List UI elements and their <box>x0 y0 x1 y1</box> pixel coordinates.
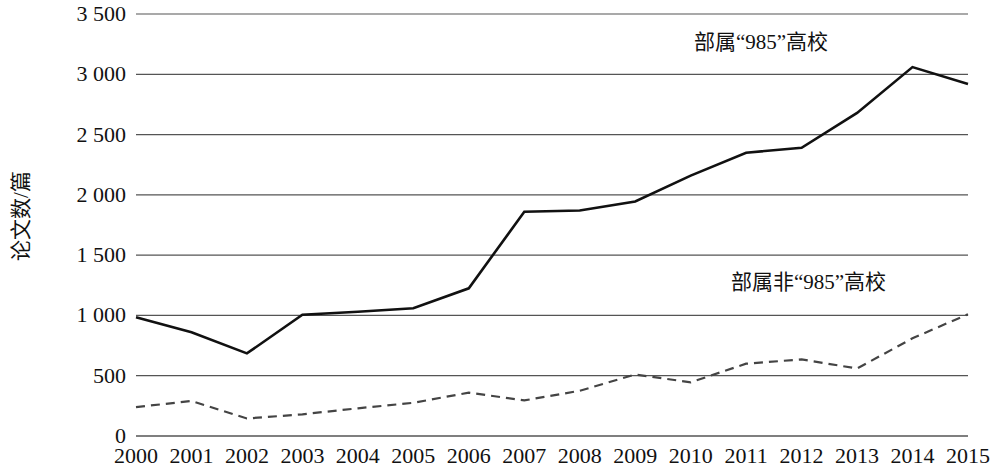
series-lines <box>136 67 968 418</box>
x-tick-label: 2010 <box>659 443 723 469</box>
x-tick-label: 2007 <box>492 443 556 469</box>
series-line-non-985 <box>136 314 968 418</box>
series-label-985: 部属“985”高校 <box>694 30 828 54</box>
x-tick-label: 2012 <box>770 443 834 469</box>
x-tick-label: 2001 <box>159 443 223 469</box>
x-tick-label: 2015 <box>936 443 994 469</box>
x-tick-label: 2004 <box>326 443 390 469</box>
x-axis-tick-labels: 2000200120022003200420052006200720082009… <box>136 443 968 473</box>
x-tick-label: 2005 <box>381 443 445 469</box>
x-tick-label: 2002 <box>215 443 279 469</box>
x-tick-label: 2000 <box>104 443 168 469</box>
x-tick-label: 2008 <box>548 443 612 469</box>
gridlines <box>136 14 968 436</box>
x-tick-label: 2013 <box>825 443 889 469</box>
series-label-non-985: 部属非“985”高校 <box>731 270 886 294</box>
x-tick-label: 2014 <box>881 443 945 469</box>
x-tick-label: 2003 <box>270 443 334 469</box>
x-tick-label: 2009 <box>603 443 667 469</box>
x-tick-label: 2006 <box>437 443 501 469</box>
series-line-985 <box>136 67 968 353</box>
x-tick-label: 2011 <box>714 443 778 469</box>
